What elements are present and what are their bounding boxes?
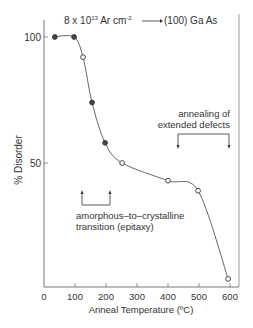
y-tick-label: 100 [24, 32, 41, 43]
annotation-epitaxy-line2: transition (epitaxy) [76, 221, 154, 232]
arrow-down-icon [177, 145, 180, 149]
annotation-epitaxy-line1: amorphous–to–crystalline [76, 210, 184, 221]
data-point-marker [196, 188, 201, 193]
annotation-annealing-bracket [178, 134, 229, 146]
data-point-marker [52, 35, 57, 40]
y-axis-label: % Disorder [13, 135, 24, 185]
x-tick-label: 600 [222, 291, 238, 302]
annotation-epitaxy-bracket [82, 193, 110, 205]
data-point-marker [72, 35, 77, 40]
data-point-marker [226, 277, 231, 282]
x-ticks: 0100200300400500600 [41, 283, 238, 302]
x-tick-label: 500 [191, 291, 207, 302]
annotation-annealing-line2: extended defects [158, 119, 231, 130]
arrow-up-icon [109, 190, 112, 194]
x-tick-label: 400 [160, 291, 176, 302]
x-tick-label: 200 [98, 291, 114, 302]
data-curve [55, 36, 228, 279]
data-point-marker [120, 161, 125, 166]
annotation-annealing-line1: annealing of [178, 108, 230, 119]
data-point-marker [166, 178, 171, 183]
data-points [52, 35, 230, 282]
title-arrow-head [160, 19, 163, 23]
data-point-marker [90, 100, 95, 105]
disorder-vs-temperature-chart: 0100200300400500600 50100 8 x 1013 Ar cm… [0, 0, 253, 328]
arrow-down-icon [228, 145, 231, 149]
arrow-up-icon [81, 190, 84, 194]
data-point-marker [81, 55, 86, 60]
data-point-marker [103, 140, 108, 145]
x-axis-label: Anneal Temperature (ºC) [89, 304, 194, 315]
y-tick-label: 50 [30, 158, 42, 169]
x-tick-label: 100 [67, 291, 83, 302]
chart-title: 8 x 1013 Ar cm-2 [64, 15, 132, 26]
x-tick-label: 0 [41, 291, 46, 302]
chart-title-target: (100) Ga As [164, 15, 217, 26]
x-tick-label: 300 [129, 291, 145, 302]
